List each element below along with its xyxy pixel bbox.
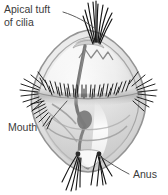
label-anus: Anus	[133, 168, 157, 180]
larva-body	[31, 30, 145, 172]
diagram-canvas: Apical tuft of cilia Mouth Anus	[0, 0, 168, 195]
label-apical-tuft-line1: Apical tuft	[4, 3, 50, 15]
label-mouth: Mouth	[8, 121, 37, 133]
larva-diagram-figure: Apical tuft of cilia Mouth Anus	[0, 0, 168, 195]
label-apical-tuft-line2: of cilia	[4, 16, 34, 28]
